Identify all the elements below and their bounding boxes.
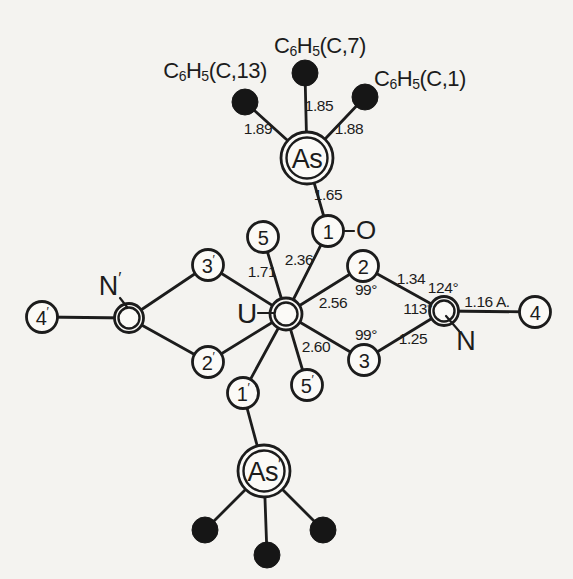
- atom-C13: [232, 89, 258, 115]
- molecular-structure-diagram: AsAs′123451′2′3′4′5′UONN′1.891.851.881.6…: [0, 0, 573, 579]
- angle-label: 99°: [355, 326, 377, 343]
- atom-N: [430, 297, 459, 326]
- atom-4p: 4′: [27, 302, 58, 333]
- bond-length-label: 2.36: [285, 251, 314, 268]
- atom-1: 1: [313, 216, 344, 247]
- atom-U: [270, 298, 302, 330]
- atom-label-4: 4: [530, 302, 541, 324]
- atom-label-5: 5: [258, 227, 269, 249]
- atom-3p: 3′: [193, 250, 224, 281]
- atom-5: 5: [248, 222, 279, 253]
- atom-2p: 2′: [193, 347, 224, 378]
- atom-As: As: [281, 132, 333, 184]
- bond-length-label: 1.71: [248, 263, 277, 280]
- atom-Asp: As′: [238, 445, 290, 497]
- bond-length-label: 1.34: [397, 270, 426, 287]
- element-label-N-prime: N′: [99, 268, 122, 301]
- atom-label-As: As: [292, 144, 323, 174]
- atom-label-3: 3: [359, 350, 370, 372]
- atom-C7: [292, 60, 318, 86]
- atom-Np: [115, 304, 144, 333]
- atom-B3: [310, 517, 336, 543]
- phenyl-group-label-C6H5-C7: C6H5(C,7): [274, 33, 366, 60]
- atom-label-2: 2: [358, 256, 369, 278]
- element-label-O: O: [356, 215, 376, 245]
- bond-length-label: 1.25: [399, 330, 428, 347]
- angle-label: 99°: [355, 281, 377, 298]
- atom-1p: 1′: [228, 378, 259, 409]
- atom-label-Asp: As′: [247, 454, 281, 487]
- bond-length-label: 1.85: [305, 97, 334, 114]
- element-label-N: N: [456, 326, 476, 356]
- atom-4: 4: [520, 297, 551, 328]
- bond-length-label: 1.88: [335, 120, 364, 137]
- element-label-U: U: [237, 298, 257, 329]
- bond-length-label: 2.56: [319, 294, 348, 311]
- atom-B2: [254, 542, 280, 568]
- phenyl-carbon-circle: [192, 517, 218, 543]
- bond-length-label: 1.65: [314, 186, 343, 203]
- phenyl-carbon-circle: [292, 60, 318, 86]
- phenyl-group-label-C6H5-C1: C6H5(C,1): [374, 66, 466, 93]
- atom-2: 2: [348, 251, 379, 282]
- phenyl-carbon-circle: [232, 89, 258, 115]
- angle-label: 124°: [428, 279, 459, 296]
- angle-label: 113°: [403, 300, 433, 317]
- atom-label-1: 1: [323, 221, 334, 243]
- figure-page: AsAs′123451′2′3′4′5′UONN′1.891.851.881.6…: [0, 0, 573, 579]
- phenyl-carbon-circle: [310, 517, 336, 543]
- atom-3: 3: [349, 345, 380, 376]
- bond-length-label: 1.89: [244, 120, 273, 137]
- phenyl-carbon-circle: [254, 542, 280, 568]
- bond-length-label: 2.60: [302, 338, 331, 355]
- atom-B1: [192, 517, 218, 543]
- bond-length-label: 1.16 A.: [464, 293, 509, 310]
- atom-5p: 5′: [292, 370, 323, 401]
